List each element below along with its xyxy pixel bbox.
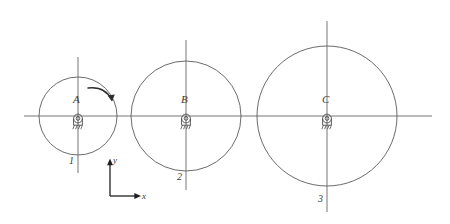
disc-1-number-label: 1 — [69, 156, 74, 166]
x-axis-label: x — [142, 192, 146, 201]
disc-2-number-label: 2 — [177, 172, 182, 182]
disc-3-group — [257, 21, 397, 212]
diagram-canvas: A B C 1 2 3 y x — [0, 0, 450, 224]
disc-3-center-label: C — [322, 94, 329, 105]
y-axis-label: y — [113, 156, 117, 165]
disc-2-center-label: B — [181, 94, 188, 105]
x-axis-arrowhead — [134, 193, 141, 199]
diagram-svg — [0, 0, 450, 224]
disc-1-group — [39, 57, 117, 173]
disc-3-number-label: 3 — [318, 194, 323, 204]
disc-1-center-label: A — [73, 94, 80, 105]
disc-2-group — [131, 40, 241, 190]
